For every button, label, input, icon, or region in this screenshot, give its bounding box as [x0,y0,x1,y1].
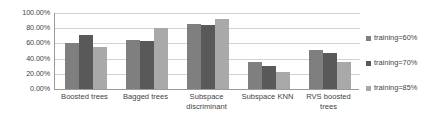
legend-item-label: training=85% [374,84,417,92]
bar[interactable] [276,72,290,89]
legend-item[interactable]: training=70% [366,59,417,67]
bar[interactable] [93,47,107,89]
bars-layer [55,13,360,89]
bar[interactable] [187,24,201,89]
y-axis-tick-label: 0.00% [30,85,50,93]
y-axis-tick-label: 80.00% [26,24,50,32]
bar[interactable] [154,28,168,89]
x-axis-category-label: Boosted trees [54,92,115,102]
bar-group [126,13,168,89]
chart-legend: training=60%training=70%training=85% [366,0,447,125]
x-axis-category-label: Subspace discriminant [176,92,237,112]
bar[interactable] [79,35,93,89]
y-axis-tick-label: 60.00% [26,39,50,47]
bar-chart: 100.00%80.00%60.00%40.00%20.00%0.00% Boo… [0,0,447,125]
y-axis-tick-label: 100.00% [22,9,50,17]
legend-item-label: training=70% [374,59,417,67]
legend-swatch-icon [366,36,371,41]
y-axis-tick-label: 20.00% [26,70,50,78]
x-axis-category-label: Subspace KNN [237,92,298,102]
plot-area [54,13,359,90]
bar[interactable] [309,50,323,89]
bar[interactable] [65,43,79,89]
bar-group [309,13,351,89]
bar[interactable] [323,53,337,89]
bar[interactable] [248,62,262,89]
x-axis: Boosted treesBagged treesSubspace discri… [54,92,359,125]
bar-group [248,13,290,89]
y-axis: 100.00%80.00%60.00%40.00%20.00%0.00% [0,0,54,125]
legend-item[interactable]: training=60% [366,34,417,42]
bar[interactable] [140,41,154,89]
legend-item[interactable]: training=85% [366,84,417,92]
x-axis-category-label: RVS boosted trees [298,92,359,112]
bar[interactable] [215,19,229,89]
legend-swatch-icon [366,86,371,91]
bar[interactable] [262,66,276,89]
legend-swatch-icon [366,61,371,66]
bar[interactable] [337,62,351,89]
bar[interactable] [201,25,215,89]
bar-group [187,13,229,89]
legend-item-label: training=60% [374,34,417,42]
bar-group [65,13,107,89]
bar[interactable] [126,40,140,89]
x-axis-category-label: Bagged trees [115,92,176,102]
y-axis-tick-label: 40.00% [26,55,50,63]
